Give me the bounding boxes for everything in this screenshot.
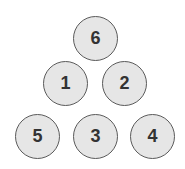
ball-label: 5	[32, 126, 42, 147]
ball-label: 2	[119, 73, 129, 94]
ball-label: 6	[90, 28, 100, 49]
ball-5: 5	[15, 114, 60, 159]
ball-6: 6	[73, 16, 118, 61]
ball-label: 3	[90, 126, 100, 147]
ball-label: 4	[147, 126, 157, 147]
ball-1: 1	[43, 61, 88, 106]
ball-2: 2	[102, 61, 147, 106]
ball-3: 3	[73, 114, 118, 159]
ball-label: 1	[60, 73, 70, 94]
ball-4: 4	[130, 114, 175, 159]
